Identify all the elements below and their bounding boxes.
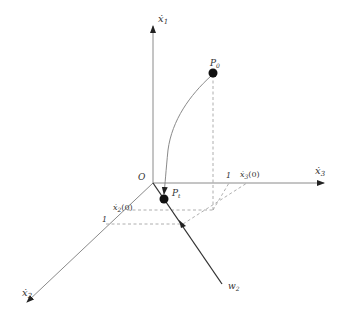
- projection-lines: [106, 75, 247, 224]
- x2-axis-label: ẋ2: [22, 287, 33, 300]
- phase-space-diagram: ẋ1 ẋ3 ẋ2 O P0 Pt w2 1 ẋ3(0) ẋ2(0) 1: [0, 0, 342, 321]
- x2-axis: [27, 183, 153, 302]
- x3-axis-label: ẋ3: [315, 165, 326, 178]
- p0-label: P0: [209, 58, 220, 69]
- x3-tick-one: 1: [226, 171, 231, 180]
- point-p0: [209, 69, 218, 78]
- p1-label: Pt: [171, 188, 181, 199]
- origin-label: O: [138, 172, 146, 182]
- w2-label: w2: [228, 281, 240, 292]
- trajectory-curve: [164, 76, 211, 194]
- x1-axis-label: ẋ1: [158, 13, 168, 26]
- x2-initial-label: ẋ2(0): [113, 203, 133, 213]
- point-p1: [160, 195, 169, 204]
- x2-tick-one: 1: [102, 215, 107, 224]
- x3-initial-label: ẋ3(0): [240, 170, 260, 180]
